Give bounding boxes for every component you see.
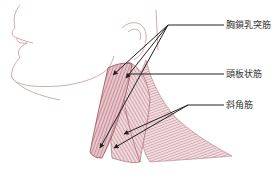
label-sternocleidomastoid: 胸鎖乳突筋 <box>226 20 271 30</box>
neck-muscle-diagram: 胸鎖乳突筋 頭板状筋 斜角筋 <box>0 0 275 177</box>
label-scalene: 斜角筋 <box>226 100 253 110</box>
label-splenius-capitis: 頭板状筋 <box>226 69 262 79</box>
trapezius-muscle <box>138 60 233 162</box>
